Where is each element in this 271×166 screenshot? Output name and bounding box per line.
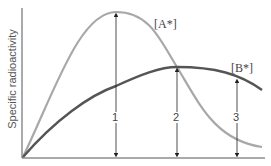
marker-2-label: 2 bbox=[173, 112, 179, 123]
marker-1-label: 1 bbox=[112, 112, 118, 123]
series-b-label: [B*] bbox=[231, 61, 253, 76]
curve-a bbox=[23, 12, 262, 157]
radioactivity-chart: Specific radioactivity [A*] [B*] 1 2 3 bbox=[0, 0, 271, 166]
plot-area bbox=[0, 0, 271, 166]
marker-3-label: 3 bbox=[233, 112, 239, 123]
y-axis-label: Specific radioactivity bbox=[6, 19, 18, 139]
series-a-label: [A*] bbox=[154, 17, 177, 32]
